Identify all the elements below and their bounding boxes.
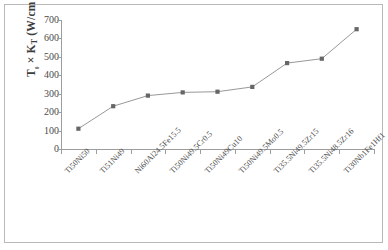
y-axis-tick-mark bbox=[57, 20, 61, 21]
y-axis-tick-mark bbox=[57, 112, 61, 113]
y-axis-tick-label: 700 bbox=[33, 16, 59, 24]
y-axis-tick-label: 300 bbox=[33, 90, 59, 98]
data-point-marker[interactable] bbox=[215, 90, 219, 94]
chart-frame: T₀ × KT (W/cm °C) 7006005004003002001000… bbox=[4, 4, 383, 243]
x-axis-tick-mark bbox=[96, 150, 97, 154]
y-axis-tick-label: 500 bbox=[33, 53, 59, 61]
x-axis-tick-mark bbox=[270, 150, 271, 154]
x-axis-tick-mark bbox=[235, 150, 236, 154]
x-axis-tick-mark bbox=[61, 150, 62, 154]
data-point-marker[interactable] bbox=[111, 104, 115, 108]
data-series-line bbox=[61, 20, 374, 150]
y-axis-tick-label: 100 bbox=[33, 127, 59, 135]
data-point-marker[interactable] bbox=[76, 127, 80, 131]
y-axis-tick-mark bbox=[57, 57, 61, 58]
x-axis-tick-label: Ti50Ni50 bbox=[63, 147, 92, 176]
data-point-marker[interactable] bbox=[285, 61, 289, 65]
y-axis-tick-mark bbox=[57, 94, 61, 95]
x-axis-tick-mark bbox=[200, 150, 201, 154]
x-axis-tick-label: Ti51Ni49 bbox=[98, 147, 127, 176]
x-axis-tick-mark bbox=[131, 150, 132, 154]
series-line bbox=[78, 29, 356, 129]
data-point-marker[interactable] bbox=[250, 85, 254, 89]
plot-area bbox=[61, 20, 374, 149]
y-axis-tick-mark bbox=[57, 38, 61, 39]
data-point-marker[interactable] bbox=[146, 94, 150, 98]
x-axis-tick-mark bbox=[339, 150, 340, 154]
y-axis-tick-label: 600 bbox=[33, 34, 59, 42]
data-point-marker[interactable] bbox=[181, 90, 185, 94]
y-axis-tick-mark bbox=[57, 131, 61, 132]
y-axis-tick-labels: 7006005004003002001000 bbox=[31, 5, 59, 149]
y-axis-tick-label: 0 bbox=[33, 145, 59, 153]
y-axis-tick-label: 400 bbox=[33, 71, 59, 79]
y-axis-tick-label: 200 bbox=[33, 108, 59, 116]
x-axis-tick-mark bbox=[165, 150, 166, 154]
y-axis-tick-mark bbox=[57, 75, 61, 76]
x-axis-tick-mark bbox=[374, 150, 375, 154]
x-axis-tick-mark bbox=[304, 150, 305, 154]
data-point-marker[interactable] bbox=[320, 57, 324, 61]
data-point-marker[interactable] bbox=[355, 27, 359, 31]
